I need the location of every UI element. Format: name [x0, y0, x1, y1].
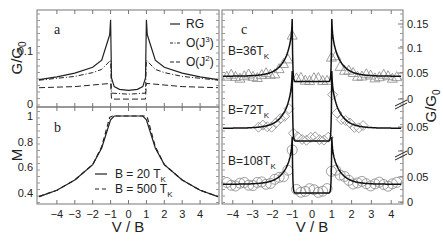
svg-text:−3: −3	[246, 208, 259, 220]
svg-text:0: 0	[407, 196, 413, 208]
x-axis-label-left: V / B	[112, 218, 145, 235]
svg-text:RG: RG	[186, 17, 204, 31]
svg-text:O(J2): O(J2)	[186, 54, 214, 69]
svg-text:0.8: 0.8	[18, 136, 33, 148]
legend-a: RG O(J3) O(J2)	[170, 17, 214, 69]
figure: −4−4−3−3−2−2−1−100112233440.1010.80.60.4…	[0, 0, 443, 241]
svg-text:G/G0: G/G0	[422, 89, 442, 123]
svg-text:3: 3	[368, 208, 374, 220]
svg-text:0.05: 0.05	[407, 171, 428, 183]
svg-text:0: 0	[27, 98, 33, 110]
svg-text:−4: −4	[227, 208, 240, 220]
svg-text:0.15: 0.15	[407, 18, 428, 30]
svg-text:2: 2	[349, 208, 355, 220]
svg-text:1: 1	[329, 208, 335, 220]
svg-text:−4: −4	[51, 208, 64, 220]
panel-label-b: b	[54, 120, 61, 135]
svg-text:M: M	[8, 149, 25, 162]
y-axis-label-a: G/G0	[8, 41, 28, 75]
svg-text:0.05: 0.05	[407, 67, 428, 79]
svg-text:4: 4	[388, 208, 394, 220]
x-axis-label-right: V / B	[296, 218, 329, 235]
svg-text:0.1: 0.1	[407, 42, 422, 54]
legend-b: B = 20 TK B = 500 TK	[95, 167, 173, 199]
svg-text:−2: −2	[266, 208, 279, 220]
svg-text:3: 3	[179, 208, 185, 220]
svg-text:−3: −3	[69, 208, 82, 220]
svg-text:2: 2	[161, 208, 167, 220]
y-axis-label-c: G/G0	[422, 89, 442, 123]
svg-text:0: 0	[407, 145, 413, 157]
panel-c-series-labels: B=36TK B=72TK B=108TK	[228, 44, 276, 171]
svg-text:B=36TK: B=36TK	[228, 44, 270, 61]
svg-text:0.6: 0.6	[18, 161, 33, 173]
svg-text:B = 500 TK: B = 500 TK	[115, 182, 173, 199]
svg-text:B=72TK: B=72TK	[228, 103, 270, 120]
panel-label-c: c	[241, 22, 247, 37]
panel-label-a: a	[54, 22, 61, 37]
y-axis-label-b: M	[8, 149, 25, 162]
svg-text:0: 0	[407, 93, 413, 105]
svg-text:0.4: 0.4	[18, 187, 33, 199]
svg-text:O(J3): O(J3)	[186, 35, 214, 50]
svg-text:4: 4	[197, 208, 203, 220]
svg-text:B=108TK: B=108TK	[228, 154, 276, 171]
svg-text:−2: −2	[86, 208, 99, 220]
svg-text:1: 1	[27, 110, 33, 122]
svg-text:G/G0: G/G0	[8, 41, 28, 75]
